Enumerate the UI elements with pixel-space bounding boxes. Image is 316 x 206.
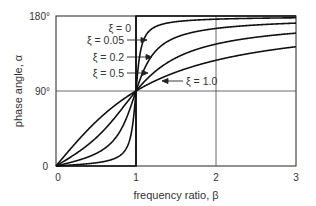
arrowhead-icon <box>142 71 148 76</box>
y-tick-180: 180° <box>29 11 50 22</box>
annotation-zeta-0.05: ξ = 0.05 <box>87 34 124 46</box>
annotation-zeta-0.5: ξ = 0.5 <box>93 67 124 79</box>
x-tick-0: 0 <box>55 172 61 183</box>
annotation-zeta-0: ξ = 0 <box>108 22 131 34</box>
x-tick-1: 1 <box>133 172 139 183</box>
x-axis-label: frequency ratio, β <box>133 189 218 201</box>
y-axis-label: phase angle, α <box>12 54 24 127</box>
arrowhead-icon <box>162 79 168 84</box>
curve-zeta-1 <box>56 47 296 166</box>
annotation-zeta-1.0: ξ = 1.0 <box>186 75 217 87</box>
x-tick-2: 2 <box>213 172 219 183</box>
x-tick-3: 3 <box>293 172 299 183</box>
y-tick-90: 90° <box>35 86 50 97</box>
y-tick-0: 0 <box>42 161 48 172</box>
annotation-zeta-0.2: ξ = 0.2 <box>93 51 124 63</box>
phase-angle-chart: 180° 90° 0 0 1 2 3 frequency ratio, β ph… <box>0 0 316 206</box>
